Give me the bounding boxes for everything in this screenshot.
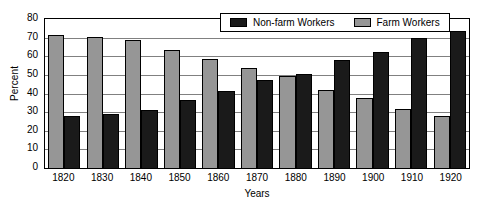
bar [373,52,389,168]
bar-group [392,19,431,168]
bar [411,38,427,168]
bar [87,37,103,168]
bar [450,31,466,168]
y-tick-label: 20 [27,125,38,135]
bar-group [430,19,469,168]
x-tick-label: 1920 [431,172,470,183]
bar [64,116,80,168]
x-tick-label: 1870 [238,172,277,183]
legend-swatch [354,18,371,27]
x-tick-label: 1890 [315,172,354,183]
legend-label: Farm Workers [377,18,440,28]
y-tick-label: 80 [27,13,38,23]
x-axis-tick-labels: 1820183018401850186018701880189019001910… [44,172,470,183]
bar [279,76,295,168]
bar [334,60,350,168]
bar-group [45,19,84,168]
chart-legend: Non-farm WorkersFarm Workers [220,13,450,32]
legend-label: Non-farm Workers [253,18,335,28]
bar [296,74,312,168]
x-tick-label: 1900 [354,172,393,183]
bar-chart: Percent 80706050403020100 Non-farm Worke… [0,0,481,213]
y-tick-label: 40 [27,88,38,98]
bar [241,68,257,168]
y-axis-tick-labels: 80706050403020100 [14,18,38,167]
bar-group [122,19,161,168]
plot-area [44,18,470,169]
legend-swatch [230,18,247,27]
bar-group [276,19,315,168]
x-tick-label: 1850 [160,172,199,183]
bar [141,110,157,168]
legend-entry: Farm Workers [354,18,440,28]
x-tick-label: 1860 [199,172,238,183]
bar-group [315,19,354,168]
x-tick-label: 1910 [393,172,432,183]
bar-group [353,19,392,168]
bar [180,100,196,168]
bar [356,98,372,168]
bars-layer [45,19,469,168]
bar [164,50,180,168]
x-tick-label: 1840 [121,172,160,183]
bar [202,59,218,168]
y-tick-label: 70 [27,32,38,42]
y-tick-label: 50 [27,69,38,79]
bar [218,91,234,168]
bar-group [199,19,238,168]
y-tick-label: 30 [27,106,38,116]
legend-entry: Non-farm Workers [230,18,335,28]
bar-group [238,19,277,168]
bar-group [161,19,200,168]
y-tick-label: 60 [27,50,38,60]
bar [395,109,411,168]
bar [103,114,119,168]
x-axis-title: Years [44,188,470,199]
x-tick-label: 1820 [44,172,83,183]
bar [257,80,273,168]
x-tick-label: 1880 [276,172,315,183]
bar-group [84,19,123,168]
y-tick-label: 0 [32,162,38,172]
bar [434,116,450,168]
x-tick-label: 1830 [83,172,122,183]
y-tick-label: 10 [27,143,38,153]
bar [125,40,141,168]
bar [48,35,64,168]
bar [318,90,334,168]
